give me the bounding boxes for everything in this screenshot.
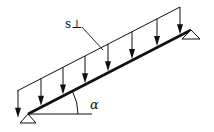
arrow-down-icon [15, 108, 21, 118]
arrow-down-icon [154, 36, 160, 46]
left-support-triangle-icon [20, 114, 36, 123]
angle-label: α [90, 97, 99, 112]
arrow-down-icon [177, 24, 183, 34]
angle-arc [72, 91, 78, 114]
arrow-down-icon [105, 61, 111, 71]
arrow-down-icon [60, 84, 66, 94]
load-arrows [15, 7, 183, 118]
arrow-down-icon [38, 96, 44, 106]
inclined-beam [28, 30, 191, 114]
load-label-leader [82, 27, 103, 50]
arrow-down-icon [129, 49, 135, 59]
beam-diagram: s⊥ α [0, 0, 214, 132]
load-label: s⊥ [65, 17, 82, 31]
arrow-down-icon [82, 73, 88, 83]
